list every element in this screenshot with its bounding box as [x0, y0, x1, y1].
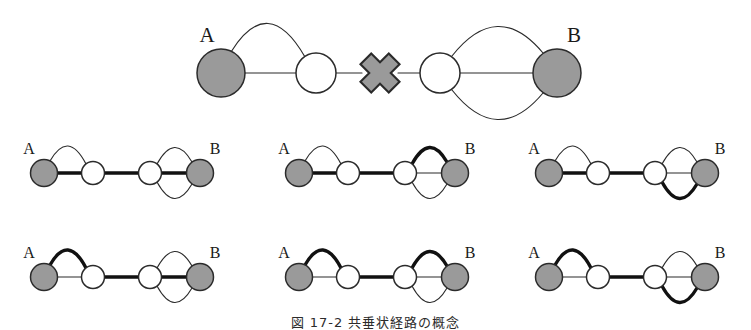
- g4-node-b: [187, 264, 214, 291]
- g2-node-a: [286, 160, 313, 187]
- g5-node-b: [442, 264, 469, 291]
- g6-node-a: [536, 264, 563, 291]
- g1-node-a: [31, 160, 58, 187]
- g4-node-w1: [82, 266, 105, 289]
- g5-node-a: [286, 264, 313, 291]
- label-a: A: [199, 23, 215, 47]
- path-graph-5: AB: [278, 244, 475, 303]
- g5-node-w2: [394, 266, 417, 289]
- g1-edge-b-top-arc: [157, 147, 192, 164]
- g4-label-a: A: [23, 244, 35, 261]
- g6-node-w2: [644, 266, 667, 289]
- g2-edge-b-top-arc: [412, 147, 447, 164]
- path-graph-1: AB: [23, 140, 220, 199]
- edge-b-top-arc: [452, 26, 543, 56]
- g4-label-b: B: [210, 244, 221, 261]
- broken-link-x-icon: [360, 53, 399, 92]
- g1-edge-b-bottom-arc: [157, 182, 192, 199]
- g5-node-w1: [337, 266, 360, 289]
- g2-edge-b-bottom-arc: [412, 182, 447, 199]
- broken-link-overview: AB: [197, 23, 581, 120]
- node-b-terminal: [533, 49, 581, 97]
- g6-node-w1: [587, 266, 610, 289]
- g3-label-b: B: [715, 140, 726, 157]
- edge-a-top-arc: [231, 23, 305, 57]
- figure-canvas: ABABABABABABAB: [0, 0, 751, 330]
- g4-edge-a-top-arc: [50, 250, 86, 268]
- g2-node-w1: [337, 162, 360, 185]
- g1-edge-a-top-arc: [50, 146, 86, 164]
- g2-label-a: A: [278, 140, 290, 157]
- g1-node-w1: [82, 162, 105, 185]
- g5-edge-a-top-arc: [305, 250, 341, 268]
- figure-svg: ABABABABABABAB: [0, 0, 751, 330]
- g3-edge-b-bottom-arc: [662, 182, 697, 199]
- g6-label-a: A: [528, 244, 540, 261]
- g3-edge-a-top-arc: [555, 146, 591, 164]
- g1-label-b: B: [210, 140, 221, 157]
- g1-node-w2: [139, 162, 162, 185]
- g6-label-b: B: [715, 244, 726, 261]
- g6-edge-a-top-arc: [555, 250, 591, 268]
- g3-node-w1: [587, 162, 610, 185]
- g4-node-a: [31, 264, 58, 291]
- path-graph-2: AB: [278, 140, 475, 199]
- path-graph-4: AB: [23, 244, 220, 303]
- g5-edge-b-bottom-arc: [412, 286, 447, 303]
- g2-node-w2: [394, 162, 417, 185]
- g5-label-a: A: [278, 244, 290, 261]
- g2-label-b: B: [465, 140, 476, 157]
- g4-node-w2: [139, 266, 162, 289]
- label-b: B: [567, 23, 581, 47]
- g2-node-b: [442, 160, 469, 187]
- path-graph-3: AB: [528, 140, 725, 199]
- g6-edge-b-bottom-arc: [662, 286, 697, 303]
- node-intermediate-left: [296, 53, 336, 93]
- g3-node-a: [536, 160, 563, 187]
- figure-caption: 図 17-2 共垂状経路の概念: [0, 312, 751, 330]
- g3-edge-b-top-arc: [662, 147, 697, 164]
- g6-edge-b-top-arc: [662, 251, 697, 268]
- edge-b-bottom-arc: [452, 90, 543, 120]
- g4-edge-b-top-arc: [157, 251, 192, 268]
- node-intermediate-right: [420, 53, 460, 93]
- g6-node-b: [692, 264, 719, 291]
- g1-node-b: [187, 160, 214, 187]
- g3-label-a: A: [528, 140, 540, 157]
- g3-node-w2: [644, 162, 667, 185]
- g5-label-b: B: [465, 244, 476, 261]
- g2-edge-a-top-arc: [305, 146, 341, 164]
- g4-edge-b-bottom-arc: [157, 286, 192, 303]
- path-graph-6: AB: [528, 244, 725, 303]
- g5-edge-b-top-arc: [412, 251, 447, 268]
- g1-label-a: A: [23, 140, 35, 157]
- g3-node-b: [692, 160, 719, 187]
- node-a-terminal: [197, 49, 245, 97]
